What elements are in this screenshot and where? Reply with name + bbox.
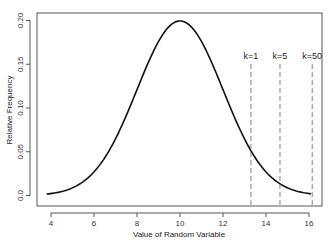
x-axis-title: Value of Random Variable: [133, 230, 226, 239]
x-tick-label: 14: [262, 219, 271, 228]
density-chart: 46810121416 0.00.050.100.150.20 k=1k=5k=…: [0, 0, 334, 249]
threshold-label: k=5: [273, 51, 288, 61]
density-curve: [47, 21, 311, 194]
y-tick-label: 0.05: [16, 143, 25, 159]
plot-frame: [37, 13, 322, 206]
y-tick-label: 0.20: [16, 12, 25, 28]
x-tick-label: 16: [305, 219, 314, 228]
threshold-label: k=50: [302, 51, 322, 61]
x-tick-label: 8: [135, 219, 140, 228]
y-tick-label: 0.15: [16, 56, 25, 72]
y-tick-label: 0.0: [16, 189, 25, 201]
threshold-lines: k=1k=5k=50: [244, 51, 323, 206]
x-axis: 46810121416: [49, 213, 314, 228]
threshold-line-k-1: k=1: [244, 51, 259, 206]
threshold-line-k-50: k=50: [302, 51, 322, 206]
x-tick-label: 6: [92, 219, 97, 228]
y-axis: 0.00.050.100.150.20: [16, 12, 30, 201]
threshold-label: k=1: [244, 51, 259, 61]
x-tick-label: 4: [49, 219, 54, 228]
y-axis-title: Relative Frequency: [5, 76, 14, 145]
x-tick-label: 12: [219, 219, 228, 228]
x-tick-label: 10: [176, 219, 185, 228]
threshold-line-k-5: k=5: [273, 51, 288, 206]
y-tick-label: 0.10: [16, 100, 25, 116]
